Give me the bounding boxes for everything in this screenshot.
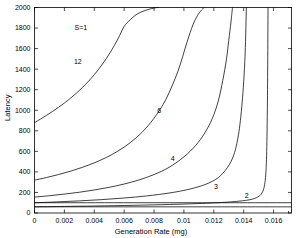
chart-plot-area: 020040060080010001200140016001800200000.… [0, 0, 302, 238]
x-tick-label: 0.008 [145, 217, 163, 224]
x-tick-label: 0 [33, 217, 37, 224]
annotations-group: S=1 [74, 24, 87, 31]
x-tick-label: 0.014 [235, 217, 253, 224]
curve-6 [35, 8, 205, 181]
curve-12 [35, 8, 159, 123]
y-tick-label: 600 [19, 148, 31, 155]
curve-label-6: 6 [157, 107, 161, 114]
y-tick-label: 0 [27, 209, 31, 216]
axes-frame [35, 8, 292, 214]
y-tick-label: 800 [19, 127, 31, 134]
x-tick-label: 0.002 [56, 217, 74, 224]
annotation-0: S=1 [74, 24, 87, 31]
x-tick-label: 0.004 [86, 217, 104, 224]
tick-marks-group [35, 8, 292, 214]
curve-label-4: 4 [171, 155, 175, 162]
x-tick-label: 0.006 [115, 217, 133, 224]
curves-group [35, 8, 292, 207]
curve-label-2: 2 [245, 192, 249, 199]
x-tick-label: 0.01 [177, 217, 191, 224]
y-tick-label: 1000 [15, 107, 31, 114]
y-tick-label: 1800 [15, 24, 31, 31]
y-tick-label: 400 [19, 168, 31, 175]
curve-4 [35, 8, 233, 198]
curve-labels-group: 126432 [74, 58, 249, 199]
y-axis-label: Latency [3, 95, 12, 121]
x-axis-label-wrap: Generation Rate (mg) [0, 228, 302, 236]
chart-figure: 020040060080010001200140016001800200000.… [0, 0, 302, 238]
tick-labels-group: 020040060080010001200140016001800200000.… [15, 4, 283, 224]
y-axis-label-wrap: Latency [4, 76, 12, 140]
y-tick-label: 200 [19, 189, 31, 196]
x-tick-label: 0.016 [265, 217, 283, 224]
curve-label-12: 12 [74, 58, 82, 65]
curve-label-3: 3 [214, 183, 218, 190]
y-tick-label: 1200 [15, 86, 31, 93]
y-tick-label: 1600 [15, 45, 31, 52]
y-tick-label: 1400 [15, 66, 31, 73]
curve-3 [35, 8, 247, 203]
y-tick-label: 2000 [15, 4, 31, 11]
x-tick-label: 0.012 [205, 217, 223, 224]
curve-2 [35, 8, 269, 207]
x-axis-label: Generation Rate (mg) [115, 227, 188, 236]
